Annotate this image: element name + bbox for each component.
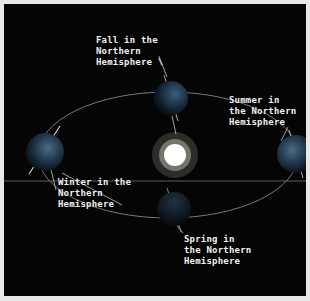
earth-winter — [26, 126, 64, 174]
sun — [152, 132, 198, 178]
label-fall: Fall in the Northern Hemisphere \ — [96, 35, 163, 68]
earth-spring — [157, 188, 191, 232]
label-summer: Summer in the Northern Hemisphere — [229, 95, 296, 128]
sun-core-icon — [164, 144, 186, 166]
earth-summer — [277, 130, 306, 178]
label-winter: Winter in the Northern Hemisphere — [58, 177, 131, 210]
leader-line-winter-2 — [51, 170, 56, 190]
seasons-diagram-figure: Fall in the Northern Hemisphere \ Summer… — [0, 0, 310, 301]
leader-line-fall-2 — [172, 116, 176, 134]
label-spring: Spring in the Northern Hemisphere — [184, 234, 251, 267]
sky-canvas: Fall in the Northern Hemisphere \ Summer… — [4, 4, 306, 296]
earth-fall — [154, 75, 188, 121]
